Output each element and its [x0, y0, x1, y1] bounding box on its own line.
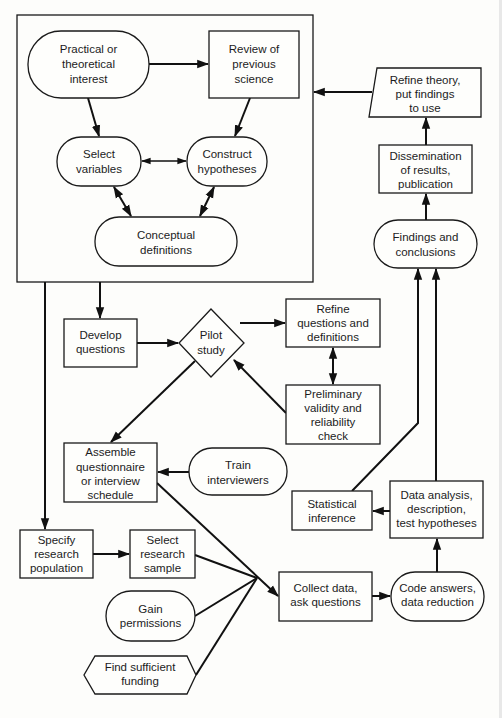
node-dissemination: Dissemination of results, publication: [379, 145, 472, 193]
svg-text:questionnaire: questionnaire: [76, 461, 145, 473]
svg-text:description,: description,: [407, 503, 466, 515]
node-construct-hypotheses: Construct hypotheses: [187, 137, 267, 186]
svg-text:inference: inference: [308, 512, 355, 524]
edge-variables-conceptual: [114, 187, 131, 216]
edge-practical-to-select-variables: [88, 98, 99, 136]
svg-text:sample: sample: [144, 562, 181, 574]
svg-text:variables: variables: [76, 163, 122, 175]
svg-text:Construct: Construct: [202, 148, 252, 160]
svg-text:interviewers: interviewers: [207, 474, 269, 486]
svg-text:Findings and: Findings and: [393, 231, 459, 243]
node-gain-permissions: Gain permissions: [106, 591, 195, 641]
svg-text:or interview: or interview: [81, 475, 140, 487]
svg-text:Select: Select: [83, 148, 116, 160]
svg-text:definitions: definitions: [140, 244, 192, 256]
svg-text:Find sufficient: Find sufficient: [105, 661, 177, 673]
svg-text:Review of: Review of: [229, 43, 280, 55]
svg-text:ask questions: ask questions: [290, 596, 361, 608]
node-findings: Findings and conclusions: [374, 220, 477, 268]
edge-funding-to-collect: [196, 578, 257, 675]
svg-text:Refine theory,: Refine theory,: [390, 74, 461, 86]
svg-text:Dissemination: Dissemination: [389, 150, 461, 162]
svg-text:Develop: Develop: [79, 329, 121, 341]
svg-text:Practical or: Practical or: [60, 43, 118, 55]
svg-text:research: research: [140, 548, 185, 560]
svg-text:research: research: [34, 548, 79, 560]
edge-pilot-to-assemble: [111, 361, 195, 442]
node-find-funding: Find sufficient funding: [84, 656, 196, 694]
svg-text:data reduction: data reduction: [401, 596, 474, 608]
svg-text:Collect data,: Collect data,: [294, 582, 358, 594]
edge-permissions-to-collect: [195, 578, 257, 616]
edge-preliminary-to-pilot: [234, 360, 286, 413]
svg-text:interest: interest: [70, 73, 109, 85]
node-review-science: Review of previous science: [209, 31, 299, 98]
svg-text:publication: publication: [398, 178, 453, 190]
edge-hypotheses-conceptual: [200, 187, 214, 216]
svg-text:Preliminary: Preliminary: [304, 388, 362, 400]
svg-text:Code answers,: Code answers,: [399, 582, 476, 594]
svg-text:hypotheses: hypotheses: [198, 163, 257, 175]
svg-text:Specify: Specify: [38, 534, 76, 546]
svg-text:conclusions: conclusions: [395, 246, 455, 258]
node-select-variables: Select variables: [57, 137, 141, 186]
svg-text:previous: previous: [232, 58, 276, 70]
node-data-analysis: Data analysis, description, test hypothe…: [390, 481, 483, 538]
svg-text:science: science: [235, 73, 274, 85]
node-refine-theory: Refine theory, put findings to use: [369, 68, 481, 117]
svg-text:Refine: Refine: [316, 303, 349, 315]
node-preliminary-check: Preliminary validity and reliability che…: [286, 385, 380, 444]
svg-text:theoretical: theoretical: [62, 58, 115, 70]
svg-text:Train: Train: [225, 459, 251, 471]
node-assemble-questionnaire: Assemble questionnaire or interview sche…: [64, 443, 157, 502]
node-conceptual-definitions: Conceptual definitions: [95, 217, 237, 266]
node-collect-data: Collect data, ask questions: [279, 572, 372, 621]
edge-review-to-hypotheses: [235, 98, 250, 136]
svg-text:Gain: Gain: [138, 603, 162, 615]
node-statistical-inference: Statistical inference: [292, 491, 372, 530]
node-select-sample: Select research sample: [130, 530, 195, 578]
svg-text:Assemble: Assemble: [85, 446, 136, 458]
svg-text:reliability: reliability: [311, 416, 356, 428]
node-train-interviewers: Train interviewers: [189, 448, 287, 495]
svg-text:permissions: permissions: [120, 617, 182, 629]
svg-text:put findings: put findings: [396, 88, 455, 100]
svg-text:population: population: [30, 562, 83, 574]
svg-text:schedule: schedule: [87, 489, 133, 501]
svg-text:validity and: validity and: [304, 402, 362, 414]
svg-text:funding: funding: [121, 675, 159, 687]
research-process-flowchart: Practical or theoretical interest Review…: [0, 0, 502, 718]
svg-text:definitions: definitions: [307, 331, 359, 343]
node-refine-questions: Refine questions and definitions: [286, 299, 380, 347]
svg-text:of results,: of results,: [401, 164, 451, 176]
svg-text:Data analysis,: Data analysis,: [400, 489, 472, 501]
node-practical-interest: Practical or theoretical interest: [28, 31, 149, 98]
svg-text:Pilot: Pilot: [200, 329, 223, 341]
node-code-answers: Code answers, data reduction: [391, 572, 484, 621]
svg-text:to use: to use: [409, 102, 440, 114]
svg-text:Conceptual: Conceptual: [137, 229, 195, 241]
svg-text:check: check: [318, 430, 348, 442]
svg-text:Statistical: Statistical: [307, 498, 356, 510]
svg-text:test hypotheses: test hypotheses: [396, 517, 477, 529]
svg-text:Select: Select: [147, 534, 180, 546]
svg-text:study: study: [197, 344, 225, 356]
svg-text:questions and: questions and: [297, 317, 369, 329]
node-specify-population: Specify research population: [20, 530, 93, 578]
node-develop-questions: Develop questions: [64, 319, 137, 367]
svg-text:questions: questions: [76, 343, 125, 355]
